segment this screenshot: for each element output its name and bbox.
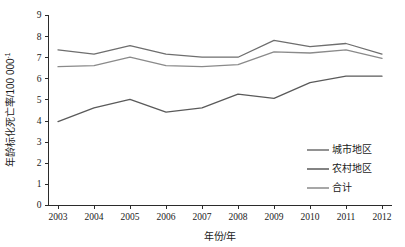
y-tick-label: 4: [37, 116, 42, 126]
y-axis: 0123456789: [37, 10, 49, 210]
line-chart: 0123456789 20032004200520062007200820092…: [0, 0, 405, 247]
data-series-group: [58, 40, 382, 121]
legend-item[interactable]: 合计: [307, 181, 352, 193]
legend-item-label: 合计: [332, 181, 352, 193]
x-tick-label: 2008: [229, 212, 248, 222]
y-tick-label: 5: [37, 95, 42, 105]
legend-item[interactable]: 城市地区: [307, 143, 372, 155]
x-tick-label: 2004: [85, 212, 104, 222]
legend-item-label: 农村地区: [332, 162, 372, 174]
legend-item-label: 城市地区: [332, 143, 372, 155]
x-tick-label: 2005: [121, 212, 140, 222]
legend: 城市地区农村地区合计: [307, 143, 372, 193]
y-tick-label: 1: [37, 179, 42, 189]
x-tick-label: 2009: [265, 212, 284, 222]
y-axis-title-superscript: -1: [4, 52, 11, 58]
x-axis-title: 年份/年: [204, 230, 237, 242]
legend-item[interactable]: 农村地区: [307, 162, 372, 174]
y-tick-label: 7: [37, 53, 42, 63]
y-tick-label: 9: [37, 10, 42, 20]
y-tick-label: 6: [37, 74, 42, 84]
x-tick-label: 2006: [157, 212, 176, 222]
y-tick-label: 3: [37, 137, 42, 147]
x-tick-label: 2010: [301, 212, 320, 222]
y-axis-title-text: 年龄标化死亡率/100 000: [4, 58, 16, 167]
x-axis: 2003200420052006200720082009201020112012: [49, 205, 392, 222]
y-axis-title: 年龄标化死亡率/100 000-1: [4, 52, 16, 167]
series-line-2: [58, 76, 382, 121]
y-tick-label: 8: [37, 32, 42, 42]
x-tick-label: 2007: [193, 212, 212, 222]
x-tick-label: 2011: [337, 212, 356, 222]
x-tick-label: 2003: [49, 212, 68, 222]
chart-container: 0123456789 20032004200520062007200820092…: [0, 0, 405, 247]
series-line-3: [58, 50, 382, 67]
y-tick-label: 2: [37, 158, 42, 168]
series-line-1: [58, 40, 382, 57]
x-tick-label: 2012: [373, 212, 392, 222]
y-tick-label: 0: [37, 200, 42, 210]
